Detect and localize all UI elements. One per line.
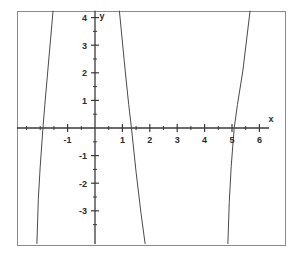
y-tick-label: 2 — [82, 68, 87, 78]
chart-figure: -1123456-3-2-11234 x y — [0, 0, 292, 258]
plot-canvas: -1123456-3-2-11234 x y — [0, 0, 292, 258]
y-tick-label: -1 — [79, 151, 87, 161]
x-tick-label: 5 — [229, 135, 234, 145]
y-tick-label: 1 — [82, 96, 87, 106]
canvas-background — [0, 0, 292, 258]
y-tick-label: 4 — [82, 13, 87, 23]
x-tick-label: 2 — [147, 135, 152, 145]
x-tick-label: 3 — [175, 135, 180, 145]
y-axis-label: y — [99, 11, 104, 21]
y-tick-label: -2 — [79, 179, 87, 189]
x-tick-label: 4 — [202, 135, 207, 145]
x-axis-label: x — [268, 114, 273, 124]
y-tick-label: 3 — [82, 41, 87, 51]
x-tick-label: -1 — [64, 135, 72, 145]
x-tick-label: 6 — [257, 135, 262, 145]
y-tick-label: -3 — [79, 206, 87, 216]
x-tick-label: 1 — [120, 135, 125, 145]
